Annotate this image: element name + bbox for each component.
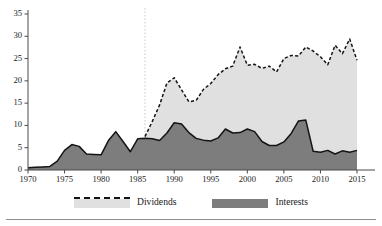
chart-figure: 05101520253035 1970197519801985199019952…: [0, 0, 382, 226]
area-fill-icon: [74, 199, 130, 208]
y-tick-label: 30: [13, 30, 22, 40]
x-tick-label: 2005: [275, 174, 292, 184]
x-axis-tick-labels: 1970197519801985199019952000200520102015: [19, 174, 365, 184]
legend-label-interests: Interests: [275, 197, 308, 207]
legend-item-dividends: Dividends: [74, 197, 176, 208]
footer-divider: [6, 219, 376, 220]
x-tick-label: 2015: [348, 174, 365, 184]
y-tick-label: 20: [13, 75, 22, 85]
y-tick-label: 35: [13, 8, 22, 18]
y-axis-tick-labels: 05101520253035: [13, 8, 22, 174]
x-tick-label: 1980: [93, 174, 110, 184]
chart-svg: 05101520253035 1970197519801985199019952…: [0, 0, 382, 190]
x-tick-label: 2000: [239, 174, 256, 184]
y-tick-label: 10: [13, 119, 22, 129]
legend-item-interests: Interests: [212, 197, 308, 208]
x-tick-label: 1995: [202, 174, 219, 184]
x-tick-label: 2010: [312, 174, 329, 184]
legend-swatch-dividends: [74, 197, 130, 208]
y-tick-label: 25: [13, 53, 22, 63]
chart-plot-area: 05101520253035 1970197519801985199019952…: [0, 0, 382, 190]
x-tick-label: 1985: [129, 174, 146, 184]
chart-series-areas: [28, 39, 357, 170]
y-tick-label: 0: [18, 164, 22, 174]
legend-swatch-interests: [212, 197, 268, 208]
chart-legend: Dividends Interests: [0, 192, 382, 212]
x-tick-label: 1970: [19, 174, 36, 184]
x-tick-label: 1990: [166, 174, 183, 184]
legend-label-dividends: Dividends: [137, 197, 176, 207]
y-tick-label: 5: [18, 142, 22, 152]
area-fill-icon: [212, 199, 268, 208]
y-tick-label: 15: [13, 97, 22, 107]
x-tick-label: 1975: [56, 174, 73, 184]
